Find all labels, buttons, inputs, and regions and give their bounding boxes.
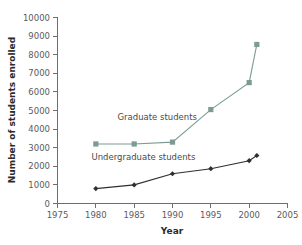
data-point [254, 42, 259, 47]
x-tick-label-1995: 1995 [200, 210, 222, 220]
x-tick-label-1985: 1985 [123, 210, 145, 220]
y-tick-label-5000: 5000 [28, 106, 50, 116]
data-point [132, 141, 137, 146]
y-tick-label-3000: 3000 [28, 143, 50, 153]
undergraduate-series-label: Undergraduate students [91, 152, 195, 162]
y-tick-label-6000: 6000 [28, 87, 50, 97]
x-tick-label-1980: 1980 [85, 210, 107, 220]
y-tick-label-4000: 4000 [28, 124, 50, 134]
x-tick-label-2000: 2000 [238, 210, 260, 220]
graduate-series-label: Graduate students [117, 112, 197, 122]
y-axis-title: Number of students enrolled [7, 37, 17, 183]
data-point [247, 80, 252, 85]
y-tick-label-1000: 1000 [28, 180, 50, 190]
data-point [170, 140, 175, 145]
y-tick-label-10000: 10000 [23, 13, 50, 23]
data-point [93, 141, 98, 146]
y-tick-label-8000: 8000 [28, 50, 50, 60]
y-tick-label-2000: 2000 [28, 161, 50, 171]
enrollment-line-chart: 10000 9000 8000 7000 6000 5000 4000 3000… [0, 0, 302, 245]
chart-container: 10000 9000 8000 7000 6000 5000 4000 3000… [0, 0, 302, 245]
y-tick-label-9000: 9000 [28, 31, 50, 41]
y-tick-label-7000: 7000 [28, 68, 50, 78]
y-tick-label-0: 0 [45, 199, 50, 209]
x-tick-label-1990: 1990 [162, 210, 184, 220]
x-axis-title: Year [160, 226, 184, 236]
x-tick-label-2005: 2005 [277, 210, 299, 220]
x-tick-label-1975: 1975 [47, 210, 69, 220]
data-point [208, 107, 213, 112]
